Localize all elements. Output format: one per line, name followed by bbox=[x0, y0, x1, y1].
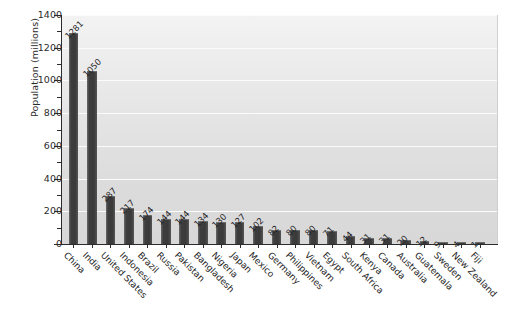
y-tick-label: 400 bbox=[10, 173, 62, 184]
x-tick bbox=[277, 244, 278, 248]
bar-value-label: 20 bbox=[395, 233, 410, 248]
x-tick bbox=[166, 244, 167, 248]
x-tick bbox=[406, 244, 407, 248]
x-tick bbox=[332, 244, 333, 248]
y-tick-label: 1200 bbox=[10, 42, 62, 53]
y-tick-label: 1000 bbox=[10, 74, 62, 85]
x-tick bbox=[184, 244, 185, 248]
y-tick-label: 600 bbox=[10, 140, 62, 151]
gridline bbox=[62, 80, 497, 81]
x-tick bbox=[480, 244, 481, 248]
bar-value-label: 12 bbox=[414, 234, 429, 249]
bar-value-label: 174 bbox=[136, 204, 155, 223]
x-tick bbox=[443, 244, 444, 248]
gridline bbox=[62, 146, 497, 147]
gridline bbox=[62, 15, 497, 16]
y-tick-label: 200 bbox=[10, 205, 62, 216]
x-tick bbox=[258, 244, 259, 248]
x-tick bbox=[424, 244, 425, 248]
bar bbox=[69, 33, 79, 244]
x-tick bbox=[129, 244, 130, 248]
x-tick bbox=[295, 244, 296, 248]
x-axis-line bbox=[61, 244, 498, 245]
bar-value-label: 217 bbox=[118, 197, 137, 216]
x-tick bbox=[461, 244, 462, 248]
gridline bbox=[62, 48, 497, 49]
x-tick bbox=[203, 244, 204, 248]
x-tick bbox=[92, 244, 93, 248]
bar-value-label: 287 bbox=[100, 185, 119, 204]
x-tick bbox=[240, 244, 241, 248]
y-tick-label: 0 bbox=[10, 238, 62, 249]
x-tick bbox=[369, 244, 370, 248]
x-tick bbox=[387, 244, 388, 248]
bar-value-label: 130 bbox=[210, 211, 229, 230]
gridline bbox=[62, 113, 497, 114]
x-tick bbox=[351, 244, 352, 248]
y-tick-label: 1400 bbox=[10, 9, 62, 20]
x-tick bbox=[221, 244, 222, 248]
plot-area: 1281105028721717414414413413012710282808… bbox=[62, 15, 498, 244]
bar-chart-figure: Population (millions) 020040060080010001… bbox=[0, 0, 512, 319]
y-axis-ticks: 0200400600800100012001400 bbox=[0, 0, 62, 319]
gridline bbox=[62, 179, 497, 180]
bar bbox=[87, 71, 97, 244]
bar-value-label: 134 bbox=[192, 211, 211, 230]
x-tick bbox=[73, 244, 74, 248]
bar-value-label: 127 bbox=[229, 212, 248, 231]
y-axis-line bbox=[61, 15, 62, 245]
x-tick bbox=[147, 244, 148, 248]
y-tick-label: 800 bbox=[10, 107, 62, 118]
x-tick bbox=[314, 244, 315, 248]
x-tick bbox=[110, 244, 111, 248]
